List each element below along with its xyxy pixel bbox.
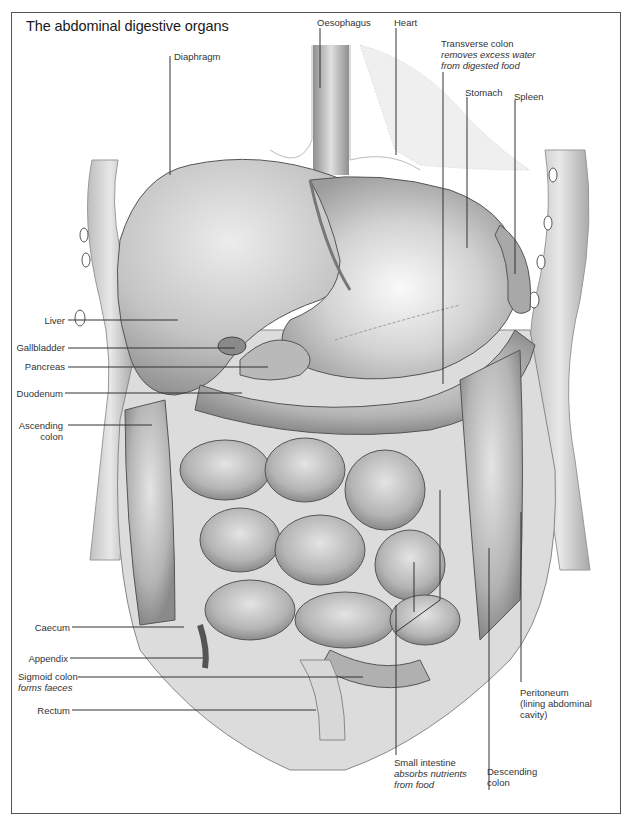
label-descending-colon: Descending colon — [487, 766, 537, 788]
label-sigmoid-colon: Sigmoid colon forms faeces — [18, 671, 78, 693]
label-text: colon — [19, 431, 63, 442]
label-peritoneum: Peritoneum (lining abdominal cavity) — [520, 687, 592, 720]
label-note: from digested food — [441, 60, 536, 71]
label-note: removes excess water — [441, 49, 536, 60]
label-text: Pancreas — [25, 361, 65, 372]
label-text: Rectum — [37, 705, 70, 716]
label-transverse-colon: Transverse colon removes excess water fr… — [441, 38, 536, 71]
label-pancreas: Pancreas — [25, 361, 65, 372]
label-text: Duodenum — [17, 388, 63, 399]
label-diaphragm: Diaphragm — [174, 51, 220, 62]
label-text: cavity) — [520, 709, 592, 720]
label-text: Caecum — [35, 622, 70, 633]
label-stomach: Stomach — [465, 87, 503, 98]
label-text: Liver — [44, 315, 65, 326]
label-ascending-colon: Ascending colon — [19, 420, 63, 442]
label-oesophagus: Oesophagus — [317, 17, 371, 28]
label-liver: Liver — [44, 315, 65, 326]
label-text: Appendix — [28, 653, 68, 664]
label-text: Ascending — [19, 420, 63, 431]
label-note: from food — [394, 779, 467, 790]
label-duodenum: Duodenum — [17, 388, 63, 399]
label-rectum: Rectum — [37, 705, 70, 716]
label-text: Diaphragm — [174, 51, 220, 62]
label-appendix: Appendix — [28, 653, 68, 664]
label-text: (lining abdominal — [520, 698, 592, 709]
label-text: Peritoneum — [520, 687, 592, 698]
label-text: Spleen — [514, 91, 544, 102]
label-text: Transverse colon — [441, 38, 514, 49]
label-caecum: Caecum — [35, 622, 70, 633]
label-text: Gallbladder — [16, 342, 65, 353]
label-note: forms faeces — [18, 682, 78, 693]
label-note: absorbs nutrients — [394, 768, 467, 779]
label-text: Heart — [394, 17, 417, 28]
label-text: colon — [487, 777, 537, 788]
label-small-intestine: Small intestine absorbs nutrients from f… — [394, 757, 467, 790]
label-text: Small intestine — [394, 757, 456, 768]
label-text: Sigmoid colon — [18, 671, 78, 682]
label-text: Oesophagus — [317, 17, 371, 28]
label-text: Stomach — [465, 87, 503, 98]
label-heart: Heart — [394, 17, 417, 28]
label-gallbladder: Gallbladder — [16, 342, 65, 353]
label-text: Descending — [487, 766, 537, 777]
label-spleen: Spleen — [514, 91, 544, 102]
